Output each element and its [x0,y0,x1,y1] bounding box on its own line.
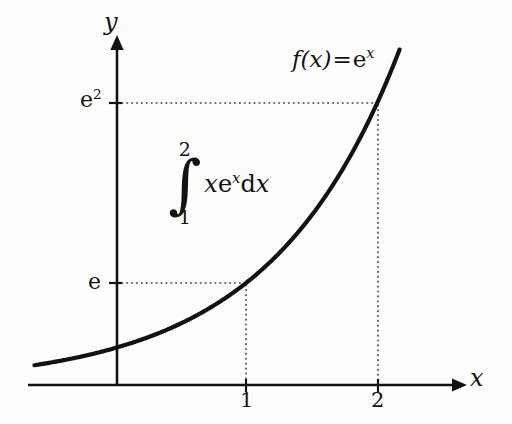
integral-integrand-body: xexdx [204,170,269,198]
y-axis-label: y [104,10,118,34]
integral-sign-with-limits: 2 ∫ 1 [168,140,201,227]
integral-sign-icon: ∫ [168,158,201,210]
y-axis-arrow-icon [110,35,123,50]
integral-lower-limit: 1 [179,208,191,227]
function-label: f(x)=ex [292,48,374,71]
function-label-exponent: x [366,45,374,61]
exponential-function-figure: y x e2 e 1 2 f(x)=ex 2 ∫ 1 xexdx [0,0,512,424]
x-axis-label: x [470,366,484,390]
y-tick-label-e: e [88,271,101,293]
y-tick-label-e-squared-base: e [80,87,93,112]
y-tick-label-e-squared-exponent: 2 [93,86,102,102]
y-tick-label-e-squared: e2 [80,89,102,111]
integrand-exponential-base: e [218,170,232,198]
x-axis-arrow-icon [452,379,467,392]
function-label-equals: = [332,46,351,72]
function-label-base: e [353,46,367,72]
integral-differential: dx [240,170,269,198]
differential-variable: x [256,170,270,198]
function-label-name: f [292,46,301,72]
differential-d: d [240,170,255,198]
integral-expression: 2 ∫ 1 xexdx [168,140,269,227]
x-tick-label-2: 2 [371,390,384,411]
integrand-variable: x [204,170,218,198]
function-label-argument: (x) [301,46,332,72]
x-tick-label-1: 1 [240,390,253,411]
